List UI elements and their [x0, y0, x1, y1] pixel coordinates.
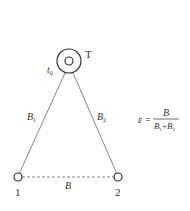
- edge-right: [73, 73, 117, 174]
- edge-base-label: B: [65, 180, 71, 191]
- point-2-label: 2: [115, 186, 121, 198]
- edge-right-label: B2: [97, 111, 106, 123]
- formula-numerator: B: [163, 107, 169, 118]
- formula-eq: =: [145, 114, 151, 125]
- point-1-marker: [14, 173, 22, 181]
- edge-left-label: B1: [27, 111, 36, 123]
- formula: ε = B B1+B2: [138, 107, 179, 132]
- triangulation-diagram: T t0 1 2 B1 B2 B ε = B B1+B2: [0, 0, 190, 211]
- time-label: t0: [47, 64, 53, 76]
- station-t: [57, 49, 81, 73]
- formula-denominator: B1+B2: [154, 121, 176, 132]
- station-label: T: [85, 48, 92, 60]
- station-inner-ring: [65, 57, 73, 65]
- point-2-marker: [114, 173, 122, 181]
- point-1-label: 1: [15, 186, 21, 198]
- edge-left: [19, 73, 65, 174]
- formula-lhs: ε: [138, 114, 142, 125]
